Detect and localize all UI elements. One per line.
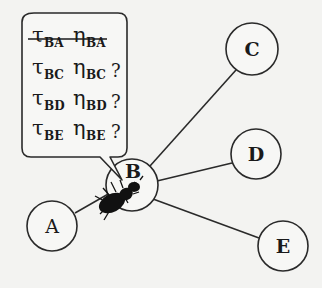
tau-symbol: τ [32, 86, 44, 110]
edge-b-e [153, 199, 259, 238]
node-c: C [226, 23, 278, 75]
node-a: A [27, 201, 77, 251]
node-c-label: C [244, 38, 259, 60]
ant-routing-diagram: A B C D E τ BA η BA τ BC η BC ? [0, 0, 322, 288]
eta-subscript: BE [86, 129, 105, 143]
node-e: E [258, 221, 308, 271]
question-mark: ? [111, 60, 121, 81]
eta-subscript: BA [86, 36, 106, 50]
node-a-label: A [44, 215, 59, 237]
eta-symbol: η [73, 23, 86, 47]
tau-subscript: BC [44, 68, 64, 82]
tau-symbol: τ [32, 23, 44, 47]
tau-subscript: BA [44, 36, 64, 50]
tau-subscript: BD [44, 99, 65, 113]
node-d: D [231, 129, 281, 179]
eta-subscript: BD [86, 99, 107, 113]
node-d-label: D [248, 143, 264, 165]
node-e-label: E [276, 235, 290, 257]
tau-symbol: τ [32, 55, 44, 79]
question-mark: ? [111, 91, 121, 112]
eta-symbol: η [73, 55, 86, 79]
tau-symbol: τ [32, 116, 44, 140]
tau-subscript: BE [44, 129, 63, 143]
edge-b-d [157, 163, 232, 181]
eta-symbol: η [73, 116, 86, 140]
node-b-label: B [125, 160, 141, 182]
eta-subscript: BC [86, 68, 106, 82]
eta-symbol: η [73, 86, 86, 110]
edge-b-c [150, 70, 236, 166]
question-mark: ? [111, 121, 121, 142]
